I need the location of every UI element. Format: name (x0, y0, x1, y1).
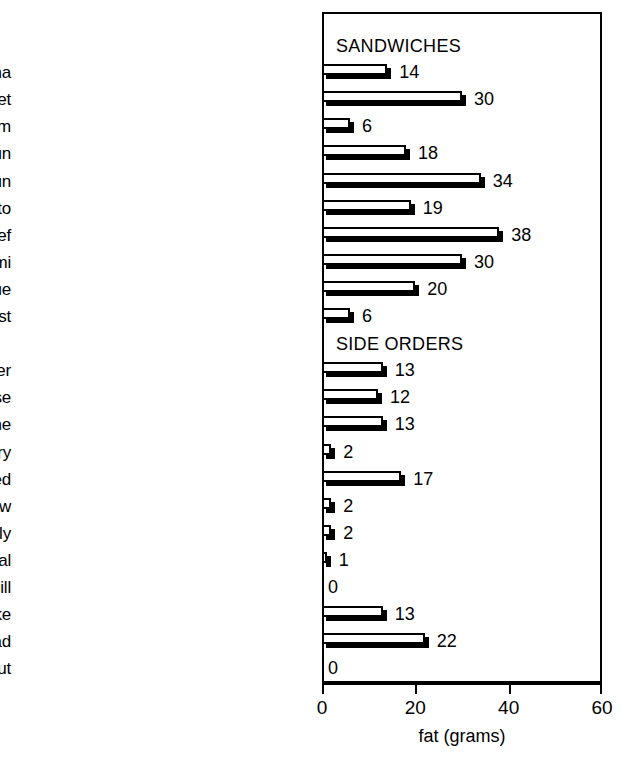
category-label: Gefilte fish, natural (0, 552, 11, 569)
bar-value-label: 19 (423, 199, 443, 217)
bar (322, 64, 387, 75)
bar (322, 498, 331, 509)
category-label: Hot dog w/bun (0, 145, 11, 162)
bar-value-label: 38 (511, 226, 531, 244)
bar (322, 254, 462, 265)
x-axis-tick (600, 683, 602, 694)
bar (322, 308, 350, 319)
category-label: Bologna (0, 64, 11, 81)
category-label: Potato pancake (0, 606, 11, 623)
bar-value-label: 12 (390, 388, 410, 406)
category-label: Lox, bagel, cream ch, tomato (0, 200, 11, 217)
category-label: Roast Beef (0, 227, 11, 244)
x-axis-tick-label: 20 (395, 698, 435, 717)
category-label: Turkey breast (0, 308, 11, 325)
category-label: Tongue (0, 281, 11, 298)
bar-value-label: 0 (328, 578, 338, 596)
bar-value-label: 2 (343, 443, 353, 461)
category-label: Gefilte fish, jelly (0, 525, 11, 542)
category-label: Sauerkraut (0, 660, 11, 677)
category-label: Salami (0, 254, 11, 271)
category-label: Chicken liver, chopped (0, 471, 11, 488)
bar (322, 444, 331, 455)
x-axis-line (322, 683, 602, 685)
category-label: Potato salad (0, 633, 11, 650)
bar-value-label: 2 (343, 497, 353, 515)
bar (322, 91, 462, 102)
bar (322, 389, 378, 400)
x-axis-tick-label: 40 (489, 698, 529, 717)
bar (322, 173, 481, 184)
section-heading-2: SIDE ORDERS (336, 335, 463, 353)
x-axis-tick-label: 60 (582, 698, 621, 717)
bar-value-label: 13 (395, 415, 415, 433)
section-heading-1: SANDWICHES (336, 37, 461, 55)
category-label: Ham (0, 118, 11, 135)
category-label: Bagel w/butter (0, 362, 11, 379)
bar (322, 281, 415, 292)
bar-value-label: 0 (328, 659, 338, 677)
x-axis-title: fat (grams) (322, 727, 602, 745)
x-axis-tick (415, 683, 417, 694)
category-label: Bagel, dry (0, 444, 11, 461)
bar (322, 471, 401, 482)
bar-value-label: 14 (399, 63, 419, 81)
bar (322, 633, 425, 644)
bar-chart: BolognaBrisketHamHot dog w/bunKnockwurst… (0, 0, 621, 757)
category-label: Brisket (0, 91, 11, 108)
x-axis-tick (509, 683, 511, 694)
bar (322, 362, 383, 373)
bar-value-label: 30 (474, 253, 494, 271)
bar-value-label: 34 (493, 172, 513, 190)
x-axis-tick-label: 0 (302, 698, 342, 717)
category-label: Pickle, dill (0, 579, 11, 596)
bar (322, 416, 383, 427)
bar-value-label: 20 (427, 280, 447, 298)
bar-value-label: 2 (343, 524, 353, 542)
category-label: Bagel w/margarine (0, 416, 11, 433)
category-label: Bagel w/cream cheese (0, 389, 11, 406)
bar-value-label: 17 (413, 470, 433, 488)
bar (322, 552, 327, 563)
bar-value-label: 6 (362, 117, 372, 135)
bar (322, 525, 331, 536)
bar-value-label: 13 (395, 605, 415, 623)
bar (322, 118, 350, 129)
bar-value-label: 13 (395, 361, 415, 379)
category-label: Cole slaw (0, 498, 11, 515)
category-label: Knockwurst w/bun (0, 173, 11, 190)
bar-shadow (326, 556, 331, 567)
bar (322, 227, 499, 238)
bar (322, 606, 383, 617)
category-label-column: BolognaBrisketHamHot dog w/bunKnockwurst… (0, 0, 316, 757)
bar (322, 200, 411, 211)
bar-value-label: 22 (437, 632, 457, 650)
x-axis-tick (322, 683, 324, 694)
bar-value-label: 6 (362, 307, 372, 325)
bar-value-label: 30 (474, 90, 494, 108)
bar-value-label: 1 (339, 551, 349, 569)
bar-value-label: 18 (418, 144, 438, 162)
bar (322, 145, 406, 156)
